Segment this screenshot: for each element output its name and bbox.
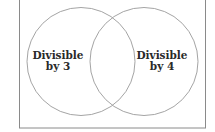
set-label-divisible-by-4: Divisible by 4: [132, 50, 192, 72]
set-label-line2: by 4: [132, 61, 192, 72]
set-label-line2: by 3: [28, 61, 88, 72]
set-label-divisible-by-3: Divisible by 3: [28, 50, 88, 72]
